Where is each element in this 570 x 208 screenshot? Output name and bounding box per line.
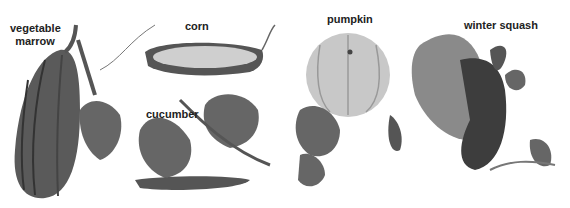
label-cucumber: cucumber [146, 108, 199, 121]
label-vegetable-marrow-line2: marrow [10, 35, 60, 48]
label-vegetable-marrow: vegetable marrow [10, 22, 60, 48]
label-vegetable-marrow-line1: vegetable [10, 22, 60, 35]
vegetable-marrow-illustration [15, 25, 155, 198]
winter-squash-illustration [412, 34, 555, 170]
label-pumpkin: pumpkin [327, 13, 373, 26]
label-winter-squash: winter squash [464, 19, 538, 32]
pumpkin-illustration [296, 33, 402, 186]
label-corn: corn [185, 20, 209, 33]
corn-illustration [145, 25, 275, 75]
